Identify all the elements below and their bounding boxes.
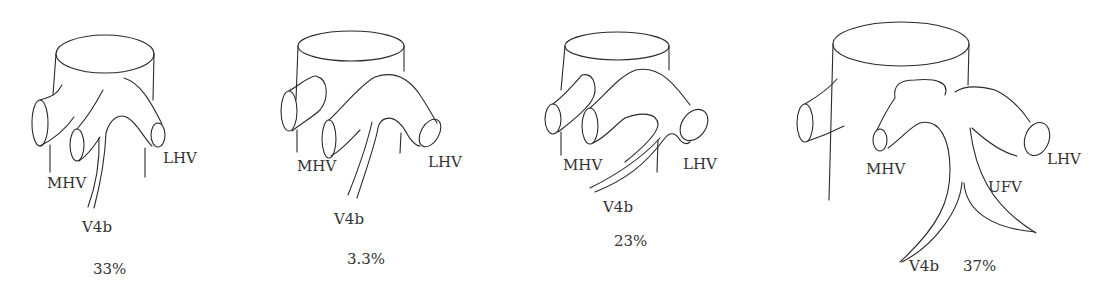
panel-1-mhv-label: MHV xyxy=(47,176,86,191)
panel-2-percentage: 3.3% xyxy=(347,252,385,267)
panel-1-lhv-label: LHV xyxy=(163,151,197,166)
panel-1-percentage: 33% xyxy=(93,262,126,277)
panel-3-v4b-label: V4b xyxy=(603,200,633,215)
hepatic-vein-diagram: MHV LHV V4b 33% MHV LHV V4b 3.3% MHV LHV… xyxy=(0,0,1104,298)
panel-4-mhv-label: MHV xyxy=(866,162,905,177)
panel-4-ufv-label: UFV xyxy=(988,180,1022,195)
panel-2-v4b-label: V4b xyxy=(334,212,364,227)
panel-2-mhv-label: MHV xyxy=(297,159,336,174)
panel-2-lhv-label: LHV xyxy=(428,155,462,170)
panel-3-percentage: 23% xyxy=(614,234,647,249)
panel-3-mhv-label: MHV xyxy=(563,158,602,173)
panel-1-v4b-label: V4b xyxy=(82,220,112,235)
panel-4-lhv-label: LHV xyxy=(1047,152,1081,167)
panel-3-lhv-label: LHV xyxy=(683,157,717,172)
panel-4-v4b-label: V4b xyxy=(909,259,939,274)
panel-4-drawing xyxy=(797,22,1054,262)
panel-4-percentage: 37% xyxy=(963,259,996,274)
